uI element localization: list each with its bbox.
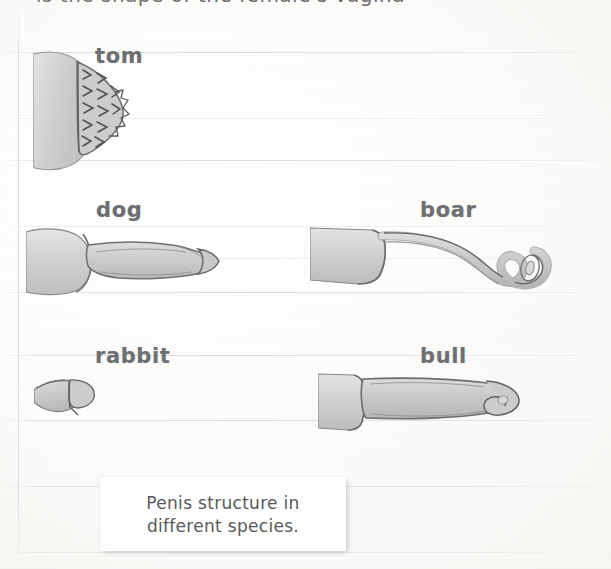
label-tom: tom — [95, 44, 143, 68]
ruled-line — [0, 552, 611, 553]
ruled-line — [0, 355, 611, 356]
figure-caption-note: Penis structure in different species. — [100, 477, 346, 551]
drawing-dog — [26, 228, 236, 296]
label-dog: dog — [96, 198, 142, 222]
caption-line-1: Penis structure in — [146, 493, 299, 513]
margin-line — [18, 0, 19, 569]
label-bull: bull — [420, 344, 467, 368]
label-rabbit: rabbit — [95, 344, 170, 368]
drawing-bull — [318, 368, 538, 440]
drawing-boar — [310, 226, 560, 306]
top-cutoff-text: is the shape of the female's vagina — [36, 0, 405, 7]
drawing-rabbit — [34, 374, 114, 416]
top-cutoff-text-region: is the shape of the female's vagina — [0, 0, 611, 11]
label-boar: boar — [420, 198, 476, 222]
caption-line-2: different species. — [147, 516, 299, 536]
scanned-textbook-page: is the shape of the female's vagina — [0, 0, 611, 569]
